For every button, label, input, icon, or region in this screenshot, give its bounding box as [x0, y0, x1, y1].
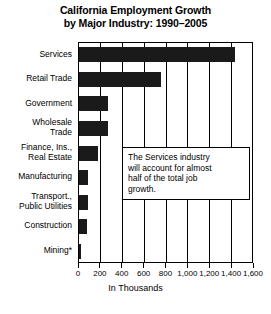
x-axis-tick-label: 1,200 — [199, 269, 219, 278]
x-axis-tick-label: 600 — [137, 269, 150, 278]
annotation-line: half of the total job — [128, 173, 244, 184]
x-axis-tick — [121, 263, 122, 268]
x-axis-tick — [253, 263, 254, 268]
chart-container: California Employment Growth by Major In… — [0, 0, 271, 314]
x-axis-tick-label: 400 — [115, 269, 128, 278]
annotation-line: growth. — [128, 184, 244, 195]
category-label: Retail Trade — [0, 74, 72, 84]
x-axis-tick-label: 1,000 — [177, 269, 197, 278]
x-axis-tick — [209, 263, 210, 268]
chart-title: California Employment Growth by Major In… — [0, 4, 271, 29]
chart-title-line-1: California Employment Growth — [0, 4, 271, 17]
category-label: Finance, Ins.,Real Estate — [0, 143, 72, 162]
x-axis-tick-label: 1,400 — [221, 269, 241, 278]
x-axis-tick — [99, 263, 100, 268]
x-axis-tick-label: 800 — [159, 269, 172, 278]
bar — [79, 47, 235, 62]
bar — [79, 244, 81, 259]
x-axis-tick — [165, 263, 166, 268]
category-label-line: Public Utilities — [0, 202, 72, 212]
bar — [79, 72, 161, 87]
x-axis-tick-label: 1,600 — [243, 269, 263, 278]
category-label: Transport.,Public Utilities — [0, 192, 72, 211]
category-axis-labels: ServicesRetail TradeGovernmentWholesaleT… — [0, 42, 75, 263]
category-label-line: Government — [0, 99, 72, 109]
bar — [79, 219, 87, 234]
category-label: Government — [0, 99, 72, 109]
annotation-line: The Services industry — [128, 152, 244, 163]
category-label: Services — [0, 50, 72, 60]
category-label: Mining* — [0, 246, 72, 256]
category-label-line: Services — [0, 50, 72, 60]
x-axis-tick-label: 200 — [93, 269, 106, 278]
bar — [79, 96, 108, 111]
category-label-line: Construction — [0, 221, 72, 231]
bar — [79, 195, 88, 210]
x-axis-tick — [231, 263, 232, 268]
chart-title-line-2: by Major Industry: 1990–2005 — [0, 17, 271, 30]
category-label-line: Real Estate — [0, 153, 72, 163]
category-label-line: Mining* — [0, 246, 72, 256]
category-label-line: Manufacturing — [0, 172, 72, 182]
category-label-line: Retail Trade — [0, 74, 72, 84]
bar — [79, 121, 108, 136]
annotation-callout: The Services industrywill account for al… — [122, 147, 250, 200]
bar — [79, 170, 88, 185]
bar — [79, 146, 98, 161]
category-label: WholesaleTrade — [0, 118, 72, 137]
annotation-line: will account for almost — [128, 163, 244, 174]
x-axis-tick — [78, 263, 79, 268]
category-label: Construction — [0, 221, 72, 231]
x-axis-tick-label: 0 — [76, 269, 80, 278]
x-axis-title: In Thousands — [0, 283, 271, 294]
x-axis-tick — [143, 263, 144, 268]
category-label: Manufacturing — [0, 172, 72, 182]
x-axis-tick — [187, 263, 188, 268]
category-label-line: Trade — [0, 128, 72, 138]
